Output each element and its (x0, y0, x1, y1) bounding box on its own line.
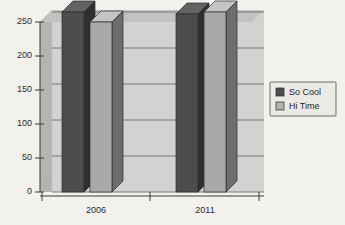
bar-front-face (204, 12, 226, 192)
bar-front-face (62, 12, 84, 192)
bar-side-face (112, 11, 123, 192)
legend-entry-hi-time[interactable]: Hi Time (276, 101, 320, 111)
y-tick-label-200: 200 (17, 50, 32, 60)
bar-chart-figure: 250 200 150 100 50 0 2006 2011 So Cool (0, 0, 345, 225)
left-wall (40, 10, 52, 192)
legend-swatch-so-cool (276, 88, 284, 96)
legend-label-hi-time: Hi Time (289, 101, 320, 111)
bar-front-face (90, 22, 112, 192)
y-tick-label-250: 250 (17, 16, 32, 26)
bar-2011-hi-time[interactable] (204, 1, 237, 192)
legend-label-so-cool: So Cool (289, 87, 321, 97)
chart-canvas: 250 200 150 100 50 0 2006 2011 So Cool (0, 0, 345, 225)
x-tick-label-2006: 2006 (86, 205, 106, 215)
legend: So Cool Hi Time (270, 82, 336, 116)
bar-2006-hi-time[interactable] (90, 11, 123, 192)
y-axis: 250 200 150 100 50 0 (17, 16, 44, 196)
bar-side-face (226, 1, 237, 192)
legend-swatch-hi-time (276, 102, 284, 110)
y-tick-label-100: 100 (17, 118, 32, 128)
legend-entry-so-cool[interactable]: So Cool (276, 87, 321, 97)
bar-front-face (176, 14, 198, 192)
x-tick-label-2011: 2011 (195, 205, 214, 215)
x-axis: 2006 2011 (40, 192, 264, 215)
y-tick-label-0: 0 (27, 186, 32, 196)
y-tick-label-50: 50 (22, 152, 32, 162)
y-tick-label-150: 150 (17, 84, 32, 94)
